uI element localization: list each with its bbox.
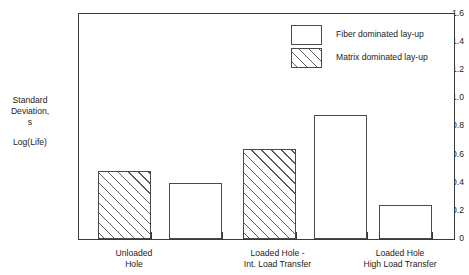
y-axis-title-line-4: Log(Life)	[2, 137, 58, 148]
y-axis-title-line-1: Standard	[2, 95, 58, 106]
bar-unloaded-hole-fiber	[169, 183, 222, 240]
x-category-loaded-hole-high-line-1: Loaded Hole	[340, 248, 460, 259]
x-category-loaded-hole-int: Loaded Hole - Int. Load Transfer	[220, 248, 335, 269]
legend-swatch-fiber-icon	[291, 25, 322, 45]
x-tick-mark-5	[296, 232, 297, 239]
x-tick-mark-7	[379, 232, 380, 239]
x-category-unloaded-hole-line-1: Unloaded	[84, 248, 184, 259]
bar-loaded-hole-int-matrix	[243, 149, 296, 239]
y-axis-title-line-2: Deviation,	[2, 106, 58, 117]
chart-legend: Fiber dominated lay-up Matrix dominated …	[291, 24, 469, 70]
x-category-loaded-hole-high-line-2: High Load Transfer	[340, 259, 460, 270]
x-category-loaded-hole-high: Loaded Hole High Load Transfer	[340, 248, 460, 269]
legend-item-matrix: Matrix dominated lay-up	[291, 47, 469, 70]
x-tick-mark-4	[243, 232, 244, 239]
x-category-unloaded-hole-line-2: Hole	[84, 259, 184, 270]
y-axis-title-line-3: s	[2, 117, 58, 128]
x-tick-mark-2	[151, 232, 152, 239]
bar-loaded-hole-int-fiber	[314, 115, 367, 239]
x-category-loaded-hole-int-line-2: Int. Load Transfer	[220, 259, 335, 270]
y-axis-title: Standard Deviation, s Log(Life)	[2, 95, 58, 148]
legend-item-fiber: Fiber dominated lay-up	[291, 24, 469, 47]
bar-loaded-hole-high-fiber	[379, 205, 432, 239]
legend-swatch-matrix-icon	[291, 48, 322, 68]
x-tick-mark-6	[367, 232, 368, 239]
legend-label-matrix: Matrix dominated lay-up	[336, 52, 428, 62]
x-category-loaded-hole-int-line-1: Loaded Hole -	[220, 248, 335, 259]
x-tick-mark-3	[222, 232, 223, 239]
x-category-unloaded-hole: Unloaded Hole	[84, 248, 184, 269]
plot-area: Fiber dominated lay-up Matrix dominated …	[78, 13, 455, 240]
x-tick-mark-1	[98, 232, 99, 239]
x-tick-mark-8	[432, 232, 433, 239]
bar-unloaded-hole-matrix	[98, 171, 151, 239]
legend-label-fiber: Fiber dominated lay-up	[336, 29, 424, 39]
